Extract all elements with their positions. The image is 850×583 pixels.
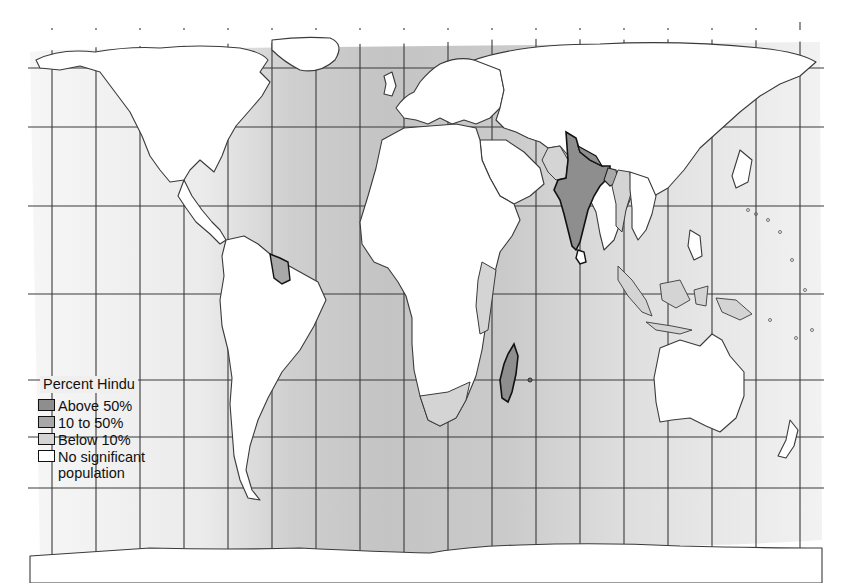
legend-label-line1: No significant [58,449,145,465]
swatch-10-to-50 [38,416,55,428]
legend-label: 10 to 50% [58,415,123,431]
legend-label: No significantpopulation [58,449,145,481]
swatch-below-10 [38,433,55,445]
legend-label-line2: population [58,465,125,481]
legend-item-above-50: Above 50% [38,398,132,414]
legend-item-below-10: Below 10% [38,432,131,448]
world-map [0,0,850,583]
legend-label: Above 50% [58,398,132,414]
legend-item-no-significant: No significantpopulation [38,449,145,481]
swatch-no-significant [38,450,55,462]
mauritius [528,378,532,382]
legend-item-10-to-50: 10 to 50% [38,415,123,431]
swatch-above-50 [38,399,55,411]
legend-title: Percent Hindu [40,376,138,393]
legend-label: Below 10% [58,432,131,448]
